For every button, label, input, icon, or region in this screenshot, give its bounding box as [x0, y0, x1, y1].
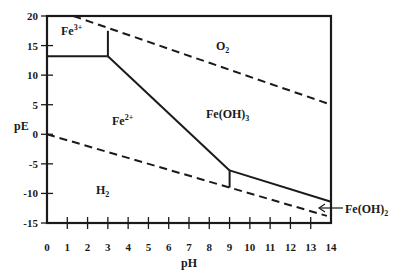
y-tick-label: 15 — [27, 40, 39, 52]
label-fe2: Fe2+ — [112, 113, 134, 128]
label-feoh2: Fe(OH)2 — [345, 202, 388, 218]
y-tick-label: -10 — [23, 187, 38, 199]
y-tick-label: 0 — [33, 128, 39, 140]
label-o2: O2 — [216, 39, 229, 55]
y-tick-label: 5 — [33, 99, 39, 111]
x-tick-label: 3 — [105, 241, 111, 253]
x-tick-label: 7 — [186, 241, 192, 253]
x-tick-label: 9 — [227, 241, 233, 253]
x-tick-label: 1 — [65, 241, 71, 253]
series-line — [47, 134, 327, 216]
x-tick-label: 2 — [85, 241, 91, 253]
x-tick-label: 0 — [44, 241, 50, 253]
y-axis-label: pE — [14, 119, 29, 133]
pe-ph-diagram: 20151050-5-10-15 01234567891011121314 pE… — [0, 0, 398, 275]
x-tick-label: 11 — [265, 241, 275, 253]
x-tick-label: 12 — [285, 241, 297, 253]
label-feoh3: Fe(OH)3 — [206, 107, 249, 123]
y-tick-label: 20 — [27, 10, 39, 22]
plot-frame — [47, 16, 331, 223]
label-h2: H2 — [96, 183, 109, 199]
y-tick-label: 10 — [27, 69, 39, 81]
x-axis-label: pH — [181, 256, 198, 270]
label-fe3: Fe3+ — [61, 23, 83, 38]
plot-area — [47, 16, 331, 223]
x-tick-label: 13 — [305, 241, 317, 253]
x-tick-label: 8 — [207, 241, 213, 253]
y-tick-label: -15 — [23, 217, 38, 229]
y-tick-label: -5 — [29, 158, 39, 170]
x-tick-label: 4 — [125, 241, 131, 253]
x-tick-label: 14 — [326, 241, 338, 253]
x-tick-label: 10 — [244, 241, 256, 253]
x-tick-label: 6 — [166, 241, 172, 253]
series-line — [230, 170, 331, 201]
x-tick-label: 5 — [146, 241, 152, 253]
